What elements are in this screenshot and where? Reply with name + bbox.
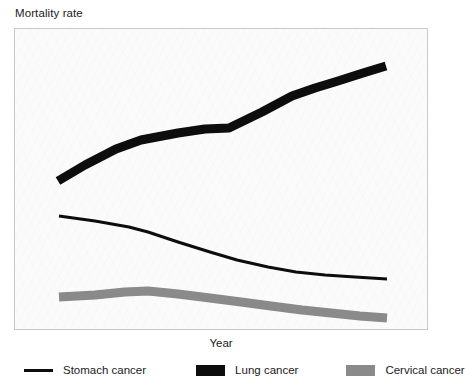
series-canvas [15,29,427,329]
legend-label-stomach-cancer: Stomach cancer [63,363,146,377]
x-axis-title: Year [0,336,442,350]
legend-item-lung-cancer: Lung cancer [196,363,298,377]
chart-legend: Stomach cancer Lung cancer Cervical canc… [14,360,428,380]
legend-swatch-cervical-cancer [346,365,375,376]
series-line-cervical-cancer [59,291,387,318]
legend-label-lung-cancer: Lung cancer [235,363,298,377]
plot-area [14,28,428,330]
legend-label-cervical-cancer: Cervical cancer [385,363,464,377]
legend-item-stomach-cancer: Stomach cancer [24,363,146,377]
legend-swatch-lung-cancer [196,365,225,376]
legend-swatch-stomach-cancer [24,369,53,372]
legend-item-cervical-cancer: Cervical cancer [346,363,464,377]
y-axis-title: Mortality rate [15,6,83,20]
series-line-stomach-cancer [59,216,387,279]
series-line-lung-cancer [58,66,386,181]
